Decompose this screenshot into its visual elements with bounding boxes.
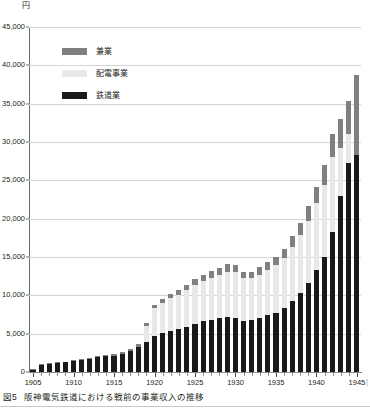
bar-group	[330, 134, 335, 372]
bar-segment	[290, 247, 295, 301]
x-tick-label-1935: 1935	[268, 378, 285, 388]
bar-segment	[55, 363, 60, 372]
figure-caption-text: 阪神電気鉄道における戦前の事業収入の推移	[24, 391, 204, 403]
x-tick-1928	[219, 373, 220, 376]
bar-segment	[128, 351, 133, 372]
bar-segment	[306, 283, 311, 372]
bar-segment	[273, 257, 278, 265]
legend-item: 兼業	[62, 47, 182, 55]
bar-segment	[273, 265, 278, 313]
x-tick-1905	[33, 373, 34, 377]
bar-segment	[330, 134, 335, 157]
bar-segment	[338, 196, 343, 372]
x-tick-1921	[163, 373, 164, 376]
bar-group	[225, 264, 230, 372]
legend-label: 兼業	[96, 47, 112, 56]
y-axis-unit-label: 円	[22, 1, 30, 11]
bar-segment	[233, 318, 238, 372]
y-tick-label-40000: 40,000	[2, 61, 25, 69]
bar-group	[233, 265, 238, 372]
x-tick-1926	[203, 373, 204, 376]
bar-group	[152, 305, 157, 372]
bar-segment	[282, 258, 287, 309]
legend-label: 配電事業	[96, 69, 128, 78]
bar-group	[338, 119, 343, 372]
bar-segment	[168, 331, 173, 372]
x-tick-1916	[122, 373, 123, 376]
bar-segment	[217, 275, 222, 319]
bar-segment	[290, 236, 295, 247]
y-tick-label-10000: 10,000	[2, 291, 25, 299]
bar-segment	[120, 354, 125, 372]
x-tick-label-1905: 1905	[25, 378, 42, 388]
bar-segment	[201, 281, 206, 322]
legend-item: 鉄道業	[62, 91, 182, 99]
bar-segment	[168, 298, 173, 330]
bar-segment	[330, 232, 335, 372]
x-tick-1929	[227, 373, 228, 376]
bar-group	[201, 275, 206, 372]
bar-segment	[176, 295, 181, 330]
bar-segment	[144, 326, 149, 342]
bar-segment	[217, 268, 222, 275]
x-tick-1917	[130, 373, 131, 376]
bar-group	[265, 262, 270, 372]
bar-group	[298, 223, 303, 372]
bar-segment	[306, 206, 311, 221]
bar-segment	[152, 308, 157, 336]
x-tick-label-1920: 1920	[146, 378, 163, 388]
bar-segment	[346, 163, 351, 372]
bar-segment	[71, 361, 76, 372]
x-tick-1938	[300, 373, 301, 376]
bar-group	[47, 363, 52, 372]
bar-segment	[144, 342, 149, 372]
bar-group	[257, 267, 262, 372]
bar-segment	[249, 320, 254, 372]
bar-segment	[47, 364, 52, 372]
figure-caption: 図5 阪神電気鉄道における戦前の事業収入の推移	[3, 391, 204, 403]
x-tick-1935	[276, 373, 277, 377]
x-tick-1927	[211, 373, 212, 376]
bar-segment	[79, 360, 84, 372]
bar-group	[306, 206, 311, 372]
x-tick-1908	[57, 373, 58, 376]
bar-segment	[209, 278, 214, 320]
bar-group	[249, 272, 254, 372]
bar-segment	[346, 101, 351, 134]
legend-item: 配電事業	[62, 69, 182, 77]
bar-segment	[298, 293, 303, 372]
x-axis-ticks	[29, 373, 361, 377]
x-tick-1931	[244, 373, 245, 376]
x-tick-1940	[316, 373, 317, 377]
bar-segment	[225, 264, 230, 271]
legend-label: 鉄道業	[96, 91, 120, 100]
bar-segment	[136, 347, 141, 372]
bar-segment	[225, 272, 230, 317]
bar-group	[87, 358, 92, 372]
bar-segment	[257, 318, 262, 372]
y-tick-label-25000: 25,000	[2, 176, 25, 184]
x-tick-1918	[138, 373, 139, 376]
bar-group	[176, 290, 181, 372]
x-tick-1936	[284, 373, 285, 376]
bar-group	[103, 355, 108, 372]
bar-segment	[298, 235, 303, 293]
bar-segment	[217, 318, 222, 372]
y-tick-label-45000: 45,000	[2, 23, 25, 31]
bar-segment	[282, 308, 287, 372]
x-tick-label-1915: 1915	[106, 378, 123, 388]
x-tick-1914	[106, 373, 107, 376]
bar-segment	[201, 321, 206, 372]
bar-segment	[111, 356, 116, 372]
x-tick-1934	[268, 373, 269, 376]
bar-group	[71, 360, 76, 372]
bar-group	[30, 369, 35, 372]
x-tick-1909	[65, 373, 66, 376]
x-tick-1925	[195, 373, 196, 377]
x-tick-1941	[325, 373, 326, 376]
bar-segment	[233, 265, 238, 272]
x-tick-1933	[260, 373, 261, 376]
bar-group	[184, 285, 189, 372]
bar-segment	[152, 336, 157, 372]
x-tick-1907	[49, 373, 50, 376]
